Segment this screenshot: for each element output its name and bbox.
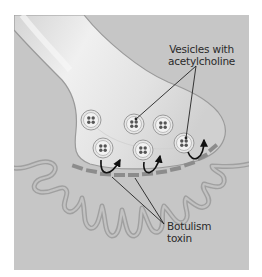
vesicle bbox=[93, 138, 113, 158]
postsynaptic-membrane-folds bbox=[14, 162, 249, 236]
vesicle bbox=[133, 140, 153, 160]
vesicle bbox=[124, 114, 144, 134]
vesicle bbox=[174, 133, 194, 153]
vesicle bbox=[81, 110, 101, 130]
vesicles-label-line2: acetylcholine bbox=[168, 55, 235, 67]
vesicle bbox=[153, 115, 173, 135]
vesicles-label: Vesicles with acetylcholine bbox=[168, 43, 235, 67]
vesicles-label-line1: Vesicles with bbox=[168, 43, 235, 55]
neuromuscular-junction-diagram bbox=[0, 0, 262, 277]
botulism-toxin-label: Botulism toxin bbox=[167, 220, 211, 244]
toxin-label-line2: toxin bbox=[167, 232, 211, 244]
toxin-label-line1: Botulism bbox=[167, 220, 211, 232]
